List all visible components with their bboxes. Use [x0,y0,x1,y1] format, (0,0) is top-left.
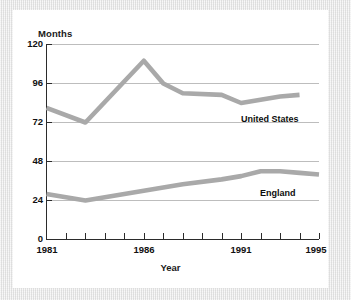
chart-svg [13,10,328,288]
series-label-united-states: United States [241,114,299,124]
x-tick-label-1981: 1981 [36,245,57,255]
plot-area: Months 120 96 72 48 24 0 [13,10,328,288]
chart-page: Months 120 96 72 48 24 0 [0,0,351,300]
x-axis-title: Year [13,262,328,273]
x-tick-label-1995: 1995 [305,245,326,255]
series-label-england: England [260,188,296,198]
x-tick-marks [47,233,320,239]
chart-card: Months 120 96 72 48 24 0 [13,10,328,288]
x-tick-label-1991: 1991 [230,245,251,255]
x-tick-label-1986: 1986 [133,245,154,255]
